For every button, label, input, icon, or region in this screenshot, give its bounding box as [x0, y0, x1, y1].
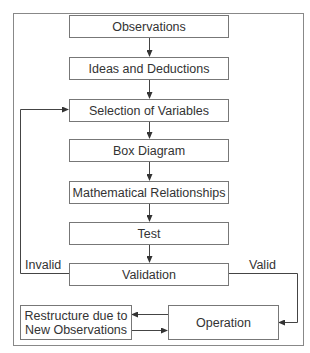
- node-label: Operation: [196, 316, 251, 330]
- node-label: Mathematical Relationships: [73, 186, 226, 200]
- node-label: Observations: [112, 20, 186, 34]
- node-restructure: Restructure due to New Observations: [20, 305, 132, 340]
- node-label: Restructure due to New Observations: [23, 309, 129, 337]
- node-test: Test: [69, 222, 229, 245]
- node-mathematical-relationships: Mathematical Relationships: [69, 181, 229, 204]
- node-label: Ideas and Deductions: [89, 62, 210, 76]
- node-box-diagram: Box Diagram: [69, 139, 229, 162]
- node-selection-of-variables: Selection of Variables: [69, 99, 229, 122]
- node-label: Selection of Variables: [89, 104, 209, 118]
- node-label: Validation: [122, 268, 176, 282]
- connector-layer: [0, 0, 310, 353]
- node-operation: Operation: [168, 305, 279, 340]
- node-ideas-and-deductions: Ideas and Deductions: [69, 57, 229, 80]
- node-label: Test: [138, 227, 161, 241]
- edge-label-invalid: Invalid: [25, 258, 61, 272]
- node-observations: Observations: [69, 15, 229, 38]
- node-validation: Validation: [69, 263, 229, 286]
- edge-label-valid: Valid: [249, 258, 276, 272]
- node-label: Box Diagram: [113, 144, 185, 158]
